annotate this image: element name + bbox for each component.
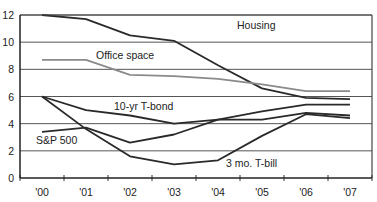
series-labels: HousingOffice space10-yr T-bondS&P 5003 … [36,19,277,169]
y-tick-label: 0 [8,172,14,184]
x-tick-label: '03 [167,186,181,198]
chart-canvas: 024681012 '00'01'02'03'04'05'06'07 Housi… [0,0,377,202]
series-label: S&P 500 [36,134,77,146]
y-axis-ticks: 024681012 [2,9,14,184]
series-label: Office space [96,49,154,61]
y-tick-label: 4 [8,118,14,130]
series-line-10-yr-t-bond [42,97,350,124]
gridlines [20,15,372,151]
y-tick-label: 12 [2,9,14,21]
y-tick-label: 10 [2,36,14,48]
series-label: Housing [237,19,276,31]
y-tick-label: 2 [8,145,14,157]
series-line-housing [42,15,350,99]
x-tick-label: '07 [343,186,357,198]
series-lines [42,15,350,164]
x-tick-label: '04 [211,186,225,198]
series-line-3-mo-t-bill [42,97,350,165]
x-tick-label: '05 [255,186,269,198]
x-tick-label: '06 [299,186,313,198]
x-tick-label: '01 [79,186,93,198]
series-line-office-space [42,60,350,91]
series-label: 3 mo. T-bill [226,157,277,169]
series-label: 10-yr T-bond [114,100,173,112]
x-tick-label: '00 [35,186,49,198]
x-tick-label: '02 [123,186,137,198]
line-chart: 024681012 '00'01'02'03'04'05'06'07 Housi… [0,0,377,202]
y-tick-label: 6 [8,91,14,103]
y-tick-label: 8 [8,63,14,75]
